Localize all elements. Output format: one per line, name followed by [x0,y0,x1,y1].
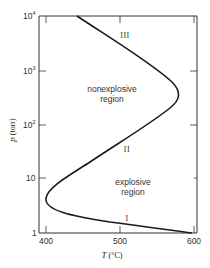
plot-frame [39,16,197,233]
nonexplosive-region-label: region [100,94,124,104]
x-tick-labels: 400 500 600 [39,236,201,246]
x-tick-500: 500 [113,236,127,246]
y-axis-title: p (torr) [7,118,17,143]
y-tick-1: 1 [32,228,37,238]
x-ticks [46,226,194,233]
explosive-region-label: region [121,187,145,197]
x-axis-title: T (°C) [102,250,123,260]
limit-label-3: III [120,31,130,40]
explosive-label: explosive [115,177,151,187]
y-tick-labels: 104 103 102 10 1 [23,10,37,238]
nonexplosive-label: nonexplosive [87,84,137,94]
x-ticks-top [46,16,194,23]
x-tick-400: 400 [39,236,53,246]
x-tick-600: 600 [187,236,201,246]
y-tick-1e3: 103 [23,65,36,76]
explosion-limits-chart: 104 103 102 10 1 400 500 600 T (°C) p (t… [0,0,210,268]
y-tick-1e2: 102 [23,119,36,130]
limit-label-2: II [124,145,130,154]
y-ticks-right [190,71,197,178]
explosion-limit-curve [46,16,192,233]
limit-label-1: I [125,214,128,223]
y-tick-1e4: 104 [23,10,36,21]
y-ticks [39,71,46,178]
y-tick-10: 10 [26,173,36,183]
